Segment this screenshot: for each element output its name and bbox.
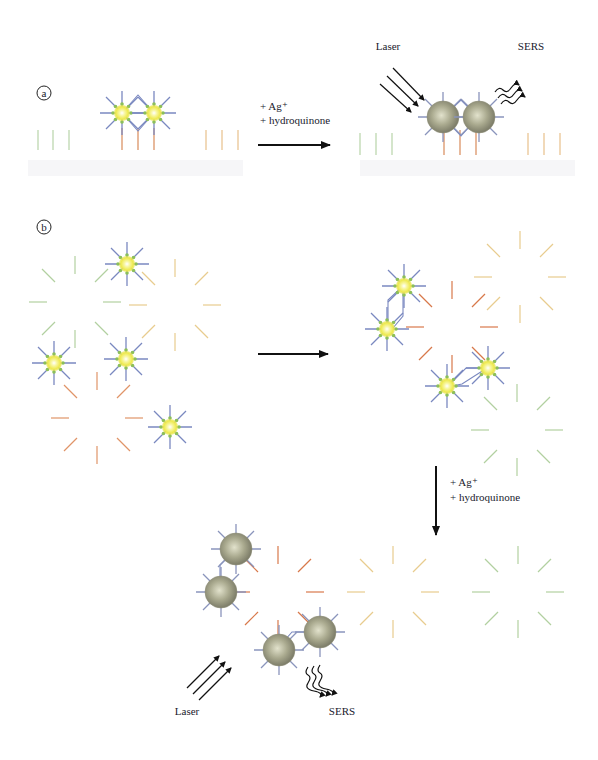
quantum-dot (32, 341, 76, 385)
probe-burst-green (29, 256, 121, 348)
quantum-dot (104, 337, 148, 381)
sers-scheme-diagram: a (0, 0, 598, 760)
sers-waves-a (495, 84, 525, 104)
panel-a-marker: a (37, 86, 51, 100)
reaction-arrow-b2: + Ag⁺ + hydroquinone (436, 466, 520, 535)
probe-burst-green-2 (471, 384, 563, 476)
substrate-right (360, 92, 575, 176)
svg-text:+ Ag⁺: + Ag⁺ (450, 476, 478, 488)
quantum-dot (148, 405, 192, 449)
svg-text:+ Ag⁺: + Ag⁺ (260, 100, 288, 112)
svg-text:b: b (41, 221, 47, 233)
svg-text:a: a (42, 87, 47, 99)
substrate-left (28, 91, 243, 176)
laser-arrows-a (380, 68, 424, 112)
quantum-dot (382, 264, 426, 308)
reaction-arrow-a: + Ag⁺ + hydroquinone (258, 100, 330, 145)
probe-burst-yellow (129, 259, 221, 351)
probe-burst-yellow-3 (347, 546, 439, 638)
laser-label-b: Laser (175, 705, 200, 717)
probe-burst-yellow-2 (474, 231, 566, 323)
silver-coated-dot (295, 607, 345, 657)
laser-arrows-b (187, 656, 231, 700)
quantum-dot (105, 242, 149, 286)
silver-coated-dot (211, 524, 261, 574)
silver-coated-dot (196, 567, 246, 617)
svg-text:+ hydroquinone: + hydroquinone (450, 491, 520, 503)
silver-coated-dot (454, 92, 504, 142)
probe-burst-orange (51, 372, 143, 464)
quantum-dot (466, 346, 510, 390)
sers-waves-b (306, 665, 333, 697)
probe-burst-green-3 (472, 546, 564, 638)
linker-lines (388, 286, 487, 387)
quantum-dot (425, 364, 469, 408)
panel-b-marker: b (37, 220, 51, 234)
svg-text:+ hydroquinone: + hydroquinone (260, 114, 330, 126)
sers-label-a: SERS (518, 40, 544, 52)
quantum-dot (365, 307, 409, 351)
panel-b: b (29, 220, 566, 717)
laser-label-a: Laser (376, 40, 401, 52)
quantum-dot (132, 91, 176, 135)
panel-a: a (28, 40, 575, 176)
sers-label-b: SERS (329, 705, 355, 717)
probe-burst-red (406, 281, 498, 373)
